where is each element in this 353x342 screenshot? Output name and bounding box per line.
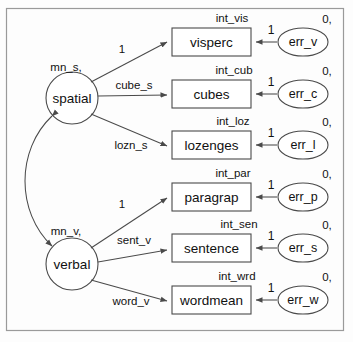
error-loading-label-err-v: 1 — [268, 23, 275, 37]
visperc-intercept-label: int_vis — [216, 12, 249, 24]
error-term-err-s[interactable]: err_s — [278, 234, 328, 262]
spatial-label: spatial — [52, 91, 91, 106]
loading-label-verbal-paragrap: 1 — [119, 198, 125, 210]
loading-label-verbal-sentence: sent_v — [117, 234, 151, 246]
paragrap-intercept-label: int_par — [215, 167, 250, 179]
paragrap-label: paragrap — [184, 190, 238, 205]
err-v-label: err_v — [289, 35, 318, 49]
covariance-path[interactable] — [25, 116, 52, 246]
error-term-err-w[interactable]: err_w — [278, 286, 328, 314]
err-v-variance-label: 0, — [322, 13, 332, 25]
loading-label-spatial-visperc: 1 — [119, 43, 125, 55]
observed-variable-visperc[interactable]: visperc — [172, 28, 251, 56]
lozenges-label: lozenges — [184, 138, 238, 153]
observed-variable-lozenges[interactable]: lozenges — [172, 131, 251, 159]
err-c-label: err_c — [289, 87, 317, 101]
loading-arrow-verbal-sentence[interactable] — [98, 250, 167, 262]
spatial-verbal-covariance-arrow[interactable] — [25, 116, 52, 246]
error-loading-label-err-w: 1 — [268, 281, 275, 295]
observed-variable-wordmean[interactable]: wordmean — [172, 286, 251, 314]
err-c-variance-label: 0, — [322, 65, 332, 77]
error-term-err-v[interactable]: err_v — [278, 28, 328, 56]
verbal-mean-label: mn_v, — [51, 225, 81, 237]
visperc-label: visperc — [190, 35, 233, 50]
err-s-label: err_s — [289, 241, 317, 255]
loading-arrow-spatial-visperc[interactable] — [91, 42, 167, 82]
sem-path-diagram: spatial mn_s, verbal mn_v, visperc int_v… — [0, 0, 353, 342]
err-w-label: err_w — [287, 293, 319, 307]
error-term-err-c[interactable]: err_c — [278, 80, 328, 108]
err-l-variance-label: 0, — [322, 116, 332, 128]
sentence-intercept-label: int_sen — [220, 218, 257, 230]
loading-label-spatial-lozenges: lozn_s — [114, 139, 147, 151]
cubes-label: cubes — [193, 87, 229, 102]
cubes-intercept-label: int_cub — [215, 64, 252, 76]
err-l-label: err_l — [290, 138, 315, 152]
err-w-variance-label: 0, — [322, 271, 332, 283]
err-p-variance-label: 0, — [322, 168, 332, 180]
err-p-label: err_p — [288, 190, 317, 204]
loading-label-verbal-wordmean: word_v — [111, 295, 149, 307]
error-loading-label-err-s: 1 — [268, 229, 275, 243]
err-s-variance-label: 0, — [322, 219, 332, 231]
loading-label-spatial-cubes: cube_s — [115, 79, 152, 91]
error-term-err-l[interactable]: err_l — [278, 131, 328, 159]
observed-variable-paragrap[interactable]: paragrap — [172, 183, 251, 211]
latent-factor-verbal[interactable]: verbal — [46, 238, 98, 290]
spatial-mean-label: mn_s, — [50, 61, 81, 73]
error-term-err-p[interactable]: err_p — [278, 183, 328, 211]
observed-variable-sentence[interactable]: sentence — [172, 234, 251, 262]
wordmean-label: wordmean — [179, 293, 243, 308]
error-loading-label-err-c: 1 — [268, 75, 275, 89]
loading-arrow-spatial-cubes[interactable] — [98, 95, 167, 96]
latent-factor-spatial[interactable]: spatial — [46, 72, 98, 124]
error-loading-label-err-l: 1 — [268, 126, 275, 140]
observed-variable-cubes[interactable]: cubes — [172, 80, 251, 108]
error-loading-label-err-p: 1 — [268, 178, 275, 192]
lozenges-intercept-label: int_loz — [216, 115, 249, 127]
wordmean-intercept-label: int_wrd — [218, 270, 255, 282]
sentence-label: sentence — [184, 241, 239, 256]
diagram-canvas: spatial mn_s, verbal mn_v, visperc int_v… — [0, 0, 353, 342]
verbal-label: verbal — [54, 257, 91, 272]
